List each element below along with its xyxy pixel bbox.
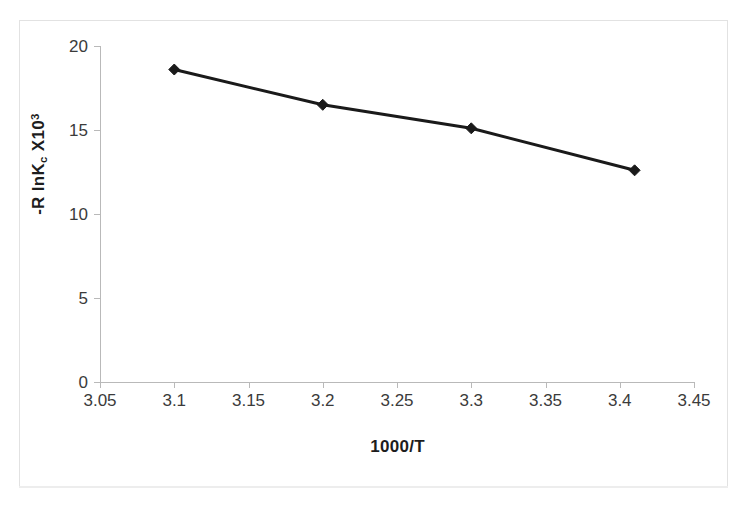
chart-figure: 05101520 3.053.13.153.23.253.33.353.43.4… bbox=[0, 0, 748, 508]
series-line bbox=[174, 70, 634, 171]
data-series-layer bbox=[0, 0, 748, 508]
data-point-marker bbox=[629, 165, 640, 176]
series-markers bbox=[169, 64, 640, 176]
data-point-marker bbox=[169, 64, 180, 75]
data-point-marker bbox=[317, 99, 328, 110]
data-point-marker bbox=[466, 123, 477, 134]
